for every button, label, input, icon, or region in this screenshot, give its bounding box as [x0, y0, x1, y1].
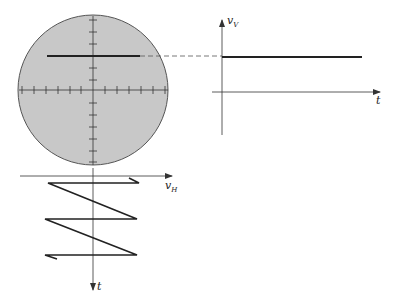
vh-axis-label: vH	[165, 179, 178, 194]
t-axis-right-label: t	[376, 94, 381, 107]
oscilloscope-screen	[18, 15, 168, 165]
vertical-signal-graph: vV t	[212, 14, 381, 135]
t-axis-bottom-label: t	[97, 280, 102, 293]
vv-axis-label: vV	[227, 14, 239, 29]
oscilloscope-diagram: vV t vH t	[0, 0, 400, 296]
horizontal-sweep-graph: vH t	[20, 168, 178, 293]
sawtooth-waveform	[45, 178, 139, 259]
